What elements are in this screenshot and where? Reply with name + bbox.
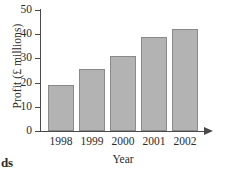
y-axis-line: [40, 9, 41, 132]
x-tick-label-2002: 2002: [165, 135, 205, 147]
y-tick-mark-0: [35, 131, 41, 132]
y-tick-mark-40: [35, 34, 41, 35]
page-text-fragment: ds: [1, 155, 13, 171]
y-tick-mark-50: [35, 10, 41, 11]
y-tick-label-0: 0: [8, 125, 32, 137]
y-tick-mark-10: [35, 107, 41, 108]
y-tick-mark-30: [35, 58, 41, 59]
y-tick-label-20: 20: [8, 77, 32, 89]
y-tick-label-40: 40: [8, 28, 32, 40]
x-axis-title: Year: [40, 153, 206, 165]
arrow-right-icon: [204, 127, 213, 135]
x-axis-line: [40, 131, 206, 132]
bar-2002: [172, 29, 198, 131]
y-tick-label-10: 10: [8, 101, 32, 113]
bar-2000: [110, 56, 136, 131]
bar-2001: [141, 37, 167, 131]
y-tick-label-50: 50: [8, 4, 32, 16]
y-tick-label-30: 30: [8, 52, 32, 64]
bar-1998: [48, 85, 74, 131]
bar-chart-figure: Profit (£ millions) 0 10 20 30 40 50 199…: [0, 0, 225, 174]
y-tick-mark-20: [35, 83, 41, 84]
bar-1999: [79, 69, 105, 131]
